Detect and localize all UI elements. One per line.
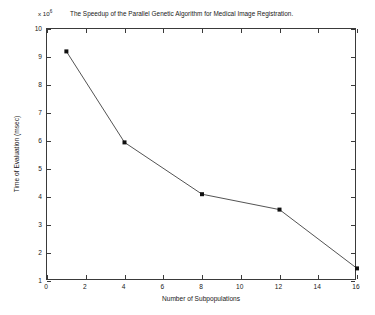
x-axis-tick xyxy=(125,275,126,279)
x-axis-tick xyxy=(241,275,242,279)
y-axis-tick xyxy=(47,169,51,170)
exponent-prefix: x 10 xyxy=(38,10,50,17)
x-axis-tick-label: 0 xyxy=(38,283,54,290)
plot-area xyxy=(46,28,356,280)
x-axis-tick xyxy=(318,275,319,279)
x-axis-tick xyxy=(86,275,87,279)
y-axis-tick-right xyxy=(351,85,355,86)
y-axis-tick xyxy=(47,197,51,198)
y-axis-tick-label: 6 xyxy=(0,137,42,144)
x-axis-tick-label: 6 xyxy=(154,283,170,290)
data-point-marker xyxy=(64,49,68,53)
data-series-layer xyxy=(47,29,357,281)
y-axis-tick-right xyxy=(351,113,355,114)
y-axis-tick-right xyxy=(351,29,355,30)
y-axis-tick-label: 10 xyxy=(0,25,42,32)
x-axis-tick-top xyxy=(47,29,48,33)
y-axis-tick xyxy=(47,253,51,254)
y-axis-tick-label: 2 xyxy=(0,249,42,256)
y-axis-tick-right xyxy=(351,253,355,254)
x-axis-tick xyxy=(357,275,358,279)
y-axis-tick xyxy=(47,141,51,142)
y-axis-tick xyxy=(47,225,51,226)
x-axis-tick-label: 8 xyxy=(193,283,209,290)
exponent-power: 6 xyxy=(50,9,53,14)
x-axis-title: Number of Subpopulations xyxy=(46,295,356,303)
chart-figure: x 106 The Speedup of the Parallel Geneti… xyxy=(0,0,375,315)
y-axis-title: Time of Evaluation (msec) xyxy=(12,28,22,280)
x-axis-tick-top xyxy=(318,29,319,33)
x-axis-tick-label: 10 xyxy=(232,283,248,290)
y-axis-tick-label: 1 xyxy=(0,277,42,284)
y-axis-exponent-label: x 106 xyxy=(38,10,52,18)
y-axis-tick-right xyxy=(351,225,355,226)
y-axis-tick-label: 3 xyxy=(0,221,42,228)
x-axis-tick-top xyxy=(202,29,203,33)
data-point-marker xyxy=(278,208,282,212)
y-axis-tick-right xyxy=(351,281,355,282)
x-axis-tick-label: 4 xyxy=(116,283,132,290)
y-axis-tick-label: 4 xyxy=(0,193,42,200)
y-axis-tick-right xyxy=(351,169,355,170)
y-axis-tick-label: 9 xyxy=(0,53,42,60)
x-axis-tick-label: 12 xyxy=(271,283,287,290)
x-axis-tick xyxy=(163,275,164,279)
x-axis-tick-label: 2 xyxy=(77,283,93,290)
x-axis-tick xyxy=(202,275,203,279)
data-point-marker xyxy=(355,266,359,270)
y-axis-tick xyxy=(47,281,51,282)
y-axis-tick-label: 5 xyxy=(0,165,42,172)
x-axis-tick-top xyxy=(125,29,126,33)
y-axis-tick-right xyxy=(351,197,355,198)
x-axis-tick-top xyxy=(357,29,358,33)
y-axis-tick-right xyxy=(351,57,355,58)
x-axis-tick-top xyxy=(280,29,281,33)
y-axis-tick-right xyxy=(351,141,355,142)
x-axis-tick-label: 14 xyxy=(309,283,325,290)
x-axis-tick-top xyxy=(241,29,242,33)
data-point-marker xyxy=(200,192,204,196)
x-axis-tick-top xyxy=(163,29,164,33)
y-axis-tick-label: 8 xyxy=(0,81,42,88)
chart-title: The Speedup of the Parallel Genetic Algo… xyxy=(70,10,360,18)
series-line xyxy=(66,51,357,268)
data-point-marker xyxy=(123,140,127,144)
x-axis-tick-top xyxy=(86,29,87,33)
x-axis-tick xyxy=(280,275,281,279)
y-axis-tick xyxy=(47,113,51,114)
y-axis-tick xyxy=(47,57,51,58)
y-axis-tick xyxy=(47,85,51,86)
y-axis-tick-label: 7 xyxy=(0,109,42,116)
x-axis-tick-label: 16 xyxy=(348,283,364,290)
x-axis-tick xyxy=(47,275,48,279)
